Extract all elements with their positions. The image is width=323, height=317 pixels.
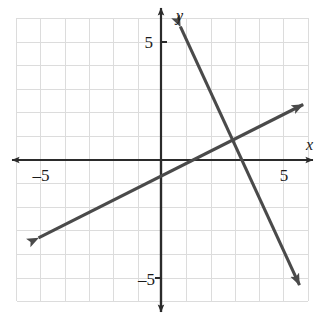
coordinate-plane-svg: y x 5 –5 –5 5 [0, 0, 323, 317]
x-axis-label: x [305, 136, 313, 153]
x-tick-label-negative-5: –5 [32, 166, 50, 185]
y-axis-label: y [174, 7, 184, 25]
coordinate-plane-figure: y x 5 –5 –5 5 [0, 0, 323, 317]
y-tick-label-5: 5 [145, 33, 154, 52]
y-tick-label-negative-5: –5 [137, 270, 155, 289]
x-tick-label-5: 5 [280, 166, 289, 185]
